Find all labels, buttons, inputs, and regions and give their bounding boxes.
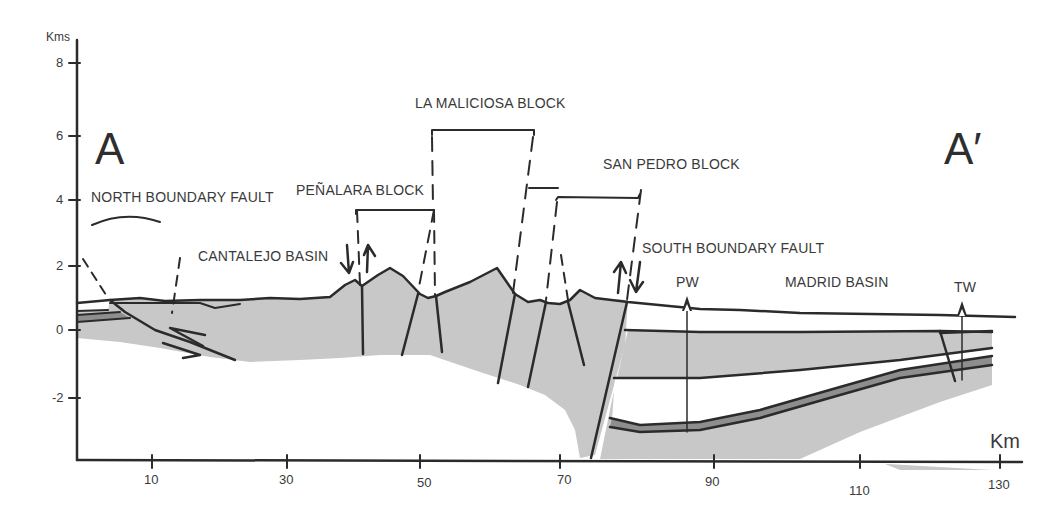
cantalejo-basin-label: CANTALEJO BASIN bbox=[198, 248, 328, 264]
x-tick-label: 10 bbox=[144, 472, 158, 487]
y-tick-label: 4 bbox=[56, 192, 63, 207]
x-tick-label: 50 bbox=[417, 475, 431, 490]
penalara-block-bracket bbox=[356, 210, 434, 214]
y-tick-label: 0 bbox=[56, 322, 63, 337]
la-maliciosa-block-label: LA MALICIOSA BLOCK bbox=[415, 95, 566, 111]
y-tick-label: -2 bbox=[52, 390, 64, 405]
cross-section-diagram bbox=[0, 0, 1062, 521]
x-tick-label: 30 bbox=[279, 472, 293, 487]
y-axis-label: Kms bbox=[46, 30, 70, 44]
x-tick-label: 130 bbox=[988, 477, 1010, 492]
madrid-basin-label: MADRID BASIN bbox=[785, 274, 889, 290]
y-tick-label: 8 bbox=[56, 55, 63, 70]
north-boundary-fault-label: NORTH BOUNDARY FAULT bbox=[91, 189, 274, 205]
x-tick-label: 110 bbox=[849, 483, 870, 498]
y-tick-label: 6 bbox=[56, 128, 63, 143]
well-tw-label: TW bbox=[954, 279, 976, 295]
south-boundary-fault-label: SOUTH BOUNDARY FAULT bbox=[642, 240, 824, 256]
san-pedro-block-bracket bbox=[556, 194, 640, 200]
x-tick-label: 90 bbox=[705, 474, 719, 489]
well-pw-label: PW bbox=[676, 274, 699, 290]
penalara-block-label: PEÑALARA BLOCK bbox=[296, 182, 424, 198]
y-tick-label: 2 bbox=[56, 258, 63, 273]
x-tick-label: 70 bbox=[557, 472, 571, 487]
la-maliciosa-block-bracket bbox=[432, 130, 534, 135]
x-axis-label: Km bbox=[990, 430, 1020, 453]
section-start-label: A bbox=[95, 124, 124, 174]
san-pedro-block-label: SAN PEDRO BLOCK bbox=[603, 156, 740, 172]
north-boundary-fault-arc bbox=[92, 217, 160, 225]
section-end-label: A′ bbox=[944, 124, 982, 174]
